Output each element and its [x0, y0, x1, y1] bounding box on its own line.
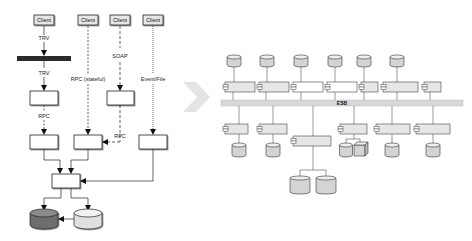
component-port-icon: [257, 85, 262, 88]
hub-box: [52, 174, 80, 188]
esb-label: ESB: [337, 100, 348, 106]
protocol-label-soap: SOAP: [112, 53, 128, 59]
arrow: [71, 188, 88, 210]
database-cylinder: [316, 178, 336, 194]
component-port-icon: [223, 85, 228, 88]
service-component: [383, 82, 418, 92]
arrow: [44, 188, 61, 210]
database-cylinder-top: [232, 143, 246, 147]
component-port-icon: [291, 139, 296, 142]
database-cylinder-top: [390, 55, 404, 59]
service-component: [259, 82, 289, 92]
arrow: [44, 149, 60, 173]
service-box: [74, 135, 102, 149]
component-port-icon: [223, 127, 228, 130]
client-box-4: Client: [143, 15, 163, 25]
protocol-label-trv-top: TRV: [39, 35, 50, 41]
client-label: Client: [146, 17, 161, 23]
database-cylinder: [290, 178, 310, 194]
component-port-icon: [257, 127, 262, 130]
service-box: [107, 91, 134, 105]
database-cylinder-top: [227, 55, 241, 59]
component-port-icon: [338, 127, 343, 130]
component-port-icon: [381, 87, 386, 90]
component-port-icon: [374, 129, 379, 132]
client-box-2: Client: [78, 15, 98, 25]
service-component: [293, 82, 323, 92]
chevron-right-arrow-icon: [183, 82, 210, 112]
client-label: Client: [37, 17, 52, 23]
component-port-icon: [291, 141, 296, 144]
component-port-icon: [325, 87, 330, 90]
component-port-icon: [223, 87, 228, 90]
service-component: [416, 124, 450, 134]
database-cylinder-top: [260, 55, 274, 59]
database-cylinder-top: [426, 143, 440, 147]
database-dark: [30, 209, 58, 229]
protocol-label-rpc-stateful: RPC (stateful): [71, 76, 106, 82]
dark-bus-bar: [17, 56, 71, 61]
service-component: [259, 124, 287, 134]
component-port-icon: [291, 85, 296, 88]
component-port-icon: [422, 85, 427, 88]
arrow: [81, 149, 153, 181]
component-port-icon: [338, 129, 343, 132]
service-component: [293, 136, 331, 146]
service-component: [376, 124, 410, 134]
database-cylinder-top: [340, 143, 353, 147]
service-component: [225, 124, 248, 134]
component-port-icon: [422, 87, 427, 90]
protocol-label-event-file: Event/File: [141, 76, 165, 82]
point-to-point-diagram: Client Client Client Client TRV TRV RPC …: [17, 15, 167, 229]
arrow: [71, 149, 88, 173]
database-cylinder-top: [385, 143, 399, 147]
component-port-icon: [414, 127, 419, 130]
service-box: [30, 91, 58, 105]
esb-diagram: ESB: [221, 55, 463, 194]
component-port-icon: [257, 129, 262, 132]
component-port-icon: [374, 127, 379, 130]
file-store-cube-icon: [354, 145, 365, 156]
protocol-label-trv-bottom: TRV: [39, 70, 50, 76]
database-cylinder-top: [328, 55, 342, 59]
component-port-icon: [291, 87, 296, 90]
protocol-label-rpc-left: RPC: [38, 113, 50, 119]
database-cylinder-top: [316, 176, 336, 180]
service-box: [139, 135, 167, 149]
client-label: Client: [113, 17, 128, 23]
service-component: [340, 124, 367, 134]
component-port-icon: [359, 87, 364, 90]
component-port-icon: [359, 85, 364, 88]
protocol-label-rpc-right: RPC: [114, 133, 126, 139]
client-box-1: Client: [34, 15, 54, 25]
service-component: [327, 82, 357, 92]
component-port-icon: [381, 85, 386, 88]
database-cylinder-top: [294, 55, 308, 59]
client-label: Client: [81, 17, 96, 23]
service-box: [30, 135, 58, 149]
database-cylinder-top: [290, 176, 310, 180]
component-port-icon: [325, 85, 330, 88]
component-port-icon: [257, 87, 262, 90]
architecture-diagram: Client Client Client Client TRV TRV RPC …: [0, 0, 472, 241]
component-port-icon: [223, 129, 228, 132]
database-cylinder-top: [357, 55, 371, 59]
service-component: [225, 82, 255, 92]
client-box-3: Client: [110, 15, 130, 25]
database-cylinder-top: [266, 143, 280, 147]
database-light: [74, 209, 102, 229]
component-port-icon: [414, 129, 419, 132]
